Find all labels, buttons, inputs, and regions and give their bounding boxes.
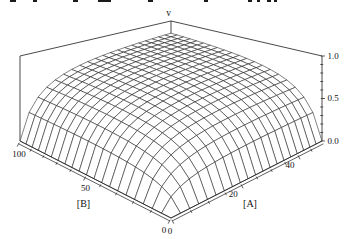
b-axis-label: [B]: [77, 198, 90, 209]
z-axis-tick-label: 0.0: [327, 136, 339, 146]
b-axis-tick-label: 50: [81, 183, 91, 193]
surface-plot-canvas: 020400501000.00.51.0[A][B]v: [0, 0, 351, 239]
z-axis-label: v: [166, 8, 171, 18]
b-axis-major-tick: [17, 143, 19, 147]
b-axis-tick-label: 100: [12, 149, 26, 159]
surface-plot-screenshot: 020400501000.00.51.0[A][B]v: [0, 0, 351, 239]
a-axis-label: [A]: [243, 198, 257, 209]
z-axis-tick-label: 0.5: [327, 93, 339, 103]
a-axis-tick-label: 20: [229, 189, 239, 199]
b-axis-tick-label: 0: [168, 226, 173, 236]
a-axis-tick-label: 40: [286, 160, 296, 170]
surface-mesh: [20, 33, 322, 218]
z-axis-tick-label: 1.0: [327, 51, 339, 61]
a-axis-tick-label: 0: [162, 225, 167, 235]
